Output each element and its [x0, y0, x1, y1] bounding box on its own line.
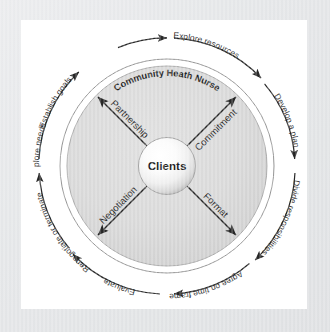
outer-label-divide-responsibilities: Divide responsibilities: [260, 180, 302, 258]
outer-label-explore-needs-text: Explore needs: [21, 20, 48, 167]
outer-label-agree-on-time-frame-text: Agree on time frame: [169, 269, 245, 302]
outer-label-establish-goals: Establish goals: [37, 74, 74, 129]
outer-label-establish-goals-text: Establish goals: [37, 74, 74, 129]
diagram-canvas: Establish goals Explore resources Develo…: [21, 20, 307, 309]
outer-label-develop-a-plan: Develop a plan: [272, 92, 301, 149]
outer-label-develop-a-plan-text: Develop a plan: [272, 92, 301, 149]
outer-label-explore-needs: Explore needs: [21, 20, 48, 167]
image-frame: Establish goals Explore resources Develo…: [0, 0, 330, 332]
arc-segment-establish-goals: [118, 38, 167, 48]
center-clients-label: Clients: [148, 159, 187, 172]
outer-label-evaluate: Evaluate: [101, 276, 136, 298]
outer-label-explore-resources-text: Explore resources: [173, 30, 241, 60]
community-health-nurse-circular-diagram: Establish goals Explore resources Develo…: [21, 20, 307, 309]
outer-label-evaluate-text: Evaluate: [101, 276, 136, 298]
outer-label-divide-responsibilities-text: Divide responsibilities: [260, 180, 302, 258]
outer-label-agree-on-time-frame: Agree on time frame: [169, 269, 245, 302]
outer-label-explore-resources: Explore resources: [173, 30, 241, 60]
